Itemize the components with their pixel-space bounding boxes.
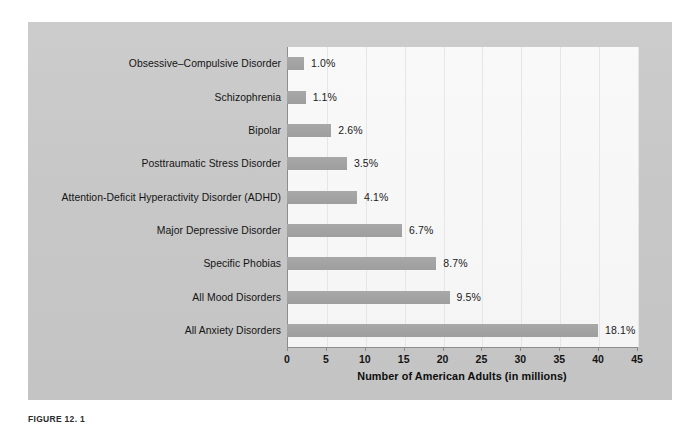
category-label-row: Specific Phobias	[28, 257, 281, 270]
bar-row: 6.7%	[287, 224, 637, 237]
bar-row: 4.1%	[287, 191, 637, 204]
bar-row: 9.5%	[287, 291, 637, 304]
category-label: Bipolar	[0, 124, 281, 137]
x-tick-mark	[287, 347, 288, 351]
x-tick-label: 40	[592, 352, 604, 366]
category-label: Schizophrenia	[0, 91, 281, 104]
category-label-row: Major Depressive Disorder	[28, 224, 281, 237]
category-label: Posttraumatic Stress Disorder	[0, 157, 281, 170]
category-label-row: Attention-Deficit Hyperactivity Disorder…	[28, 191, 281, 204]
bar-value-label: 4.1%	[364, 189, 388, 205]
category-label-row: All Anxiety Disorders	[28, 324, 281, 337]
bar-value-label: 8.7%	[443, 255, 467, 271]
bar	[287, 224, 402, 237]
bar-value-label: 1.1%	[313, 89, 337, 105]
x-tick-label: 20	[437, 352, 449, 366]
category-label-row: Obsessive–Compulsive Disorder	[28, 57, 281, 70]
x-tick-mark	[559, 347, 560, 351]
category-label-row: Posttraumatic Stress Disorder	[28, 157, 281, 170]
category-label: Obsessive–Compulsive Disorder	[0, 57, 281, 70]
x-tick-mark	[365, 347, 366, 351]
bar	[287, 324, 598, 337]
x-tick-mark	[520, 347, 521, 351]
x-tick-mark	[598, 347, 599, 351]
x-tick-label: 25	[476, 352, 488, 366]
category-label: All Anxiety Disorders	[0, 324, 281, 337]
x-tick-label: 35	[553, 352, 565, 366]
category-label: All Mood Disorders	[0, 291, 281, 304]
x-tick-label: 15	[398, 352, 410, 366]
figure-root: 1.0%Obsessive–Compulsive Disorder1.1%Sch…	[0, 0, 698, 430]
x-tick-mark	[326, 347, 327, 351]
bar-row: 1.0%	[287, 57, 637, 70]
x-tick-label: 30	[514, 352, 526, 366]
x-tick-label: 10	[359, 352, 371, 366]
category-label: Attention-Deficit Hyperactivity Disorder…	[0, 191, 281, 204]
x-tick-mark	[481, 347, 482, 351]
bar	[287, 291, 450, 304]
bar-value-label: 18.1%	[605, 322, 635, 338]
bar	[287, 257, 436, 270]
bar-value-label: 1.0%	[311, 55, 335, 71]
gridline	[638, 47, 639, 347]
bar-row: 2.6%	[287, 124, 637, 137]
x-tick-label: 0	[284, 352, 290, 366]
bar-value-label: 6.7%	[409, 222, 433, 238]
category-label-row: Bipolar	[28, 124, 281, 137]
bar	[287, 91, 306, 104]
category-label-row: Schizophrenia	[28, 91, 281, 104]
bar-value-label: 2.6%	[338, 122, 362, 138]
figure-caption: FIGURE 12. 1	[28, 414, 85, 424]
x-tick-mark	[443, 347, 444, 351]
x-tick-label: 45	[631, 352, 643, 366]
bar-row: 3.5%	[287, 157, 637, 170]
x-tick-label: 5	[323, 352, 329, 366]
bar	[287, 191, 357, 204]
category-label-row: All Mood Disorders	[28, 291, 281, 304]
bar-value-label: 3.5%	[354, 155, 378, 171]
category-label: Major Depressive Disorder	[0, 224, 281, 237]
x-tick-mark	[404, 347, 405, 351]
figure-panel: 1.0%Obsessive–Compulsive Disorder1.1%Sch…	[28, 22, 672, 400]
bar	[287, 157, 347, 170]
x-tick-mark	[637, 347, 638, 351]
x-axis-title: Number of American Adults (in millions)	[287, 370, 637, 382]
category-label: Specific Phobias	[0, 257, 281, 270]
bar	[287, 124, 331, 137]
bar-row: 8.7%	[287, 257, 637, 270]
bar-row: 1.1%	[287, 91, 637, 104]
bar	[287, 57, 304, 70]
bar-value-label: 9.5%	[457, 289, 481, 305]
bar-row: 18.1%	[287, 324, 637, 337]
